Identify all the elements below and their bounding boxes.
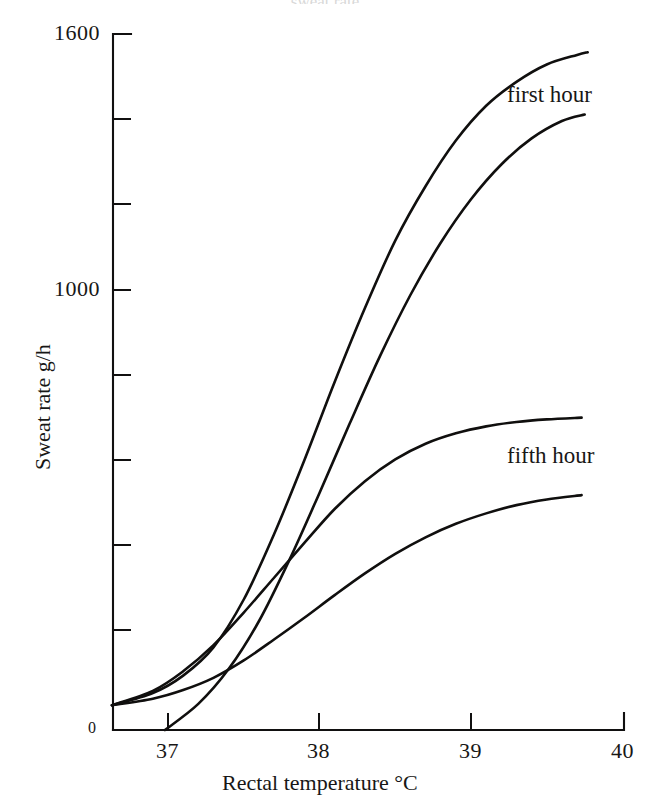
chart-figure: sweat rate bbox=[0, 0, 650, 811]
series-label-fifth-hour: fifth hour bbox=[507, 443, 595, 469]
y-axis-title: Sweat rate g/h bbox=[30, 344, 56, 470]
y-tick-label-1000: 1000 bbox=[54, 276, 100, 302]
series-label-first-hour: first hour bbox=[507, 82, 592, 108]
x-tick-label-37: 37 bbox=[156, 738, 179, 764]
x-axis-line bbox=[113, 713, 624, 730]
x-tick-label-40: 40 bbox=[611, 738, 634, 764]
x-tick-label-38: 38 bbox=[307, 738, 330, 764]
x-tick-label-39: 39 bbox=[459, 738, 482, 764]
y-axis-ticks bbox=[113, 119, 131, 630]
chart-plot-area bbox=[0, 0, 650, 811]
curve-fifth-hour-lower bbox=[112, 495, 582, 705]
y-tick-label-1600: 1600 bbox=[54, 20, 100, 46]
y-axis-line bbox=[113, 34, 131, 730]
x-axis-title: Rectal temperature °C bbox=[222, 770, 418, 796]
y-tick-label-0: 0 bbox=[88, 719, 97, 737]
x-axis-ticks bbox=[168, 713, 471, 730]
